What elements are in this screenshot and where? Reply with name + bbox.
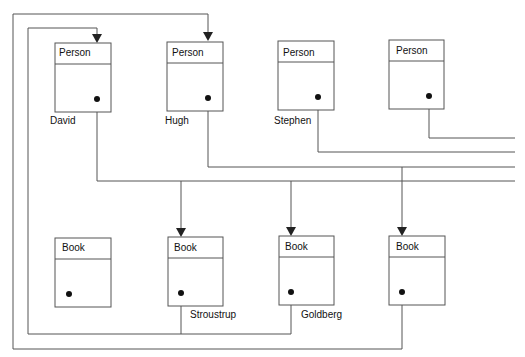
class-label: Person <box>172 47 204 58</box>
arrowhead-icon <box>397 227 407 236</box>
reference-dot <box>66 291 72 297</box>
person-box-hugh[interactable]: Person Hugh <box>165 42 223 126</box>
arrowhead-icon <box>92 34 102 43</box>
book-box-1[interactable]: Book <box>55 238 111 307</box>
object-name: David <box>50 115 76 126</box>
reference-dot <box>288 289 294 295</box>
object-name: Stroustrup <box>190 309 237 320</box>
reference-dot <box>315 94 321 100</box>
wire-hugh-book <box>208 98 515 167</box>
class-label: Person <box>59 47 91 58</box>
class-label: Person <box>396 45 428 56</box>
reference-dot <box>205 95 211 101</box>
book-box-goldberg[interactable]: Book Goldberg <box>279 236 342 320</box>
person-box-stephen[interactable]: Person Stephen <box>274 41 334 126</box>
object-diagram: Person David Person Hugh Person Stephen … <box>0 0 525 357</box>
class-label: Person <box>283 47 315 58</box>
book-box-4[interactable]: Book <box>389 236 445 305</box>
book-box-stroustrup[interactable]: Book Stroustrup <box>168 237 237 320</box>
class-label: Book <box>174 242 198 253</box>
wire-david-books <box>97 99 515 181</box>
reference-dot <box>399 289 405 295</box>
class-label: Book <box>396 241 420 252</box>
person-box-david[interactable]: Person David <box>50 43 111 126</box>
arrowhead-icon <box>286 227 296 236</box>
class-label: Book <box>62 242 86 253</box>
arrowhead-icon <box>176 228 186 237</box>
reference-dot <box>426 93 432 99</box>
person-box-4[interactable]: Person <box>389 40 444 109</box>
object-name: Goldberg <box>301 309 342 320</box>
arrowheads <box>92 32 407 237</box>
object-name: Hugh <box>165 115 189 126</box>
class-label: Book <box>285 241 309 252</box>
object-name: Stephen <box>274 115 311 126</box>
reference-dot <box>94 96 100 102</box>
reference-dot <box>178 290 184 296</box>
arrowhead-icon <box>203 32 213 41</box>
